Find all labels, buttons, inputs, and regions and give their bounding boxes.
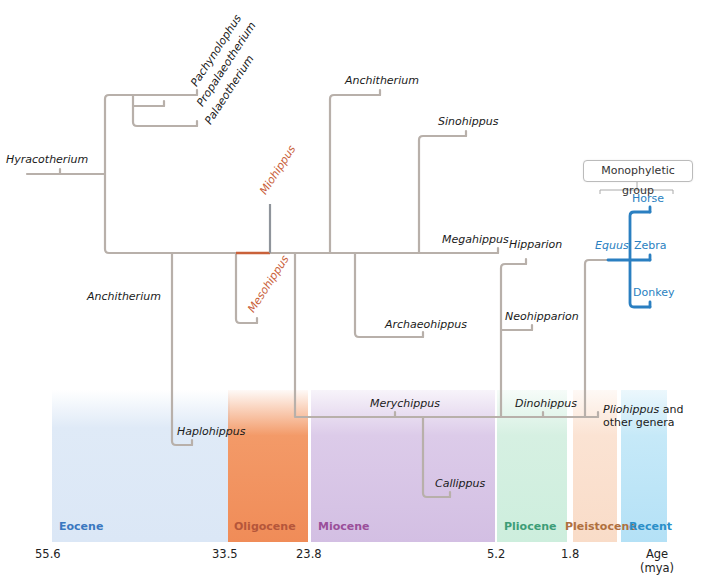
age-axis-label: Age (mya) — [640, 547, 674, 575]
monophyletic-group-label: Monophyletic group — [583, 160, 693, 182]
taxon-archaeohippus: Archaeohippus — [385, 318, 467, 331]
taxon-hyracotherium: Hyracotherium — [6, 153, 88, 166]
taxon-haplohippus: Haplohippus — [177, 425, 245, 438]
age-5-2: 5.2 — [487, 547, 505, 561]
taxon-anchitherium-lower: Anchitherium — [87, 290, 161, 303]
age-55-6: 55.6 — [35, 547, 61, 561]
taxon-megahippus: Megahippus — [442, 233, 509, 246]
epoch-pliocene: Pliocene — [504, 520, 556, 533]
taxon-pliohippus: Pliohippus and other genera — [603, 403, 683, 429]
taxon-sinohippus: Sinohippus — [438, 115, 498, 128]
taxon-callippus: Callippus — [435, 477, 485, 490]
epoch-miocene: Miocene — [318, 520, 370, 533]
taxon-zebra: Zebra — [634, 239, 667, 252]
taxon-donkey: Donkey — [633, 286, 674, 299]
pliohippus-and: and — [659, 403, 683, 416]
taxon-anchitherium-upper: Anchitherium — [345, 74, 419, 87]
epoch-oligocene: Oligocene — [234, 520, 296, 533]
taxon-merychippus: Merychippus — [370, 397, 440, 410]
age-33-5: 33.5 — [212, 547, 238, 561]
age-axis-title: Age — [646, 547, 668, 561]
taxon-neohipparion: Neohipparion — [505, 310, 579, 323]
epoch-eocene: Eocene — [59, 520, 103, 533]
taxon-dinohippus: Dinohippus — [515, 397, 577, 410]
pliohippus-name: Pliohippus — [603, 403, 659, 416]
taxon-equus: Equus — [595, 239, 629, 252]
age-23-8: 23.8 — [296, 547, 322, 561]
other-genera-label: other genera — [603, 416, 675, 429]
age-1-8: 1.8 — [561, 547, 579, 561]
epoch-pleistocene: Pleistocene — [565, 520, 637, 533]
horse-phylogeny-diagram: Hyracotherium Pachynolophus Propalaeothe… — [0, 0, 703, 576]
taxon-hipparion: Hipparion — [509, 238, 562, 251]
epoch-recent: Recent — [629, 520, 672, 533]
age-axis-unit: (mya) — [640, 561, 674, 575]
